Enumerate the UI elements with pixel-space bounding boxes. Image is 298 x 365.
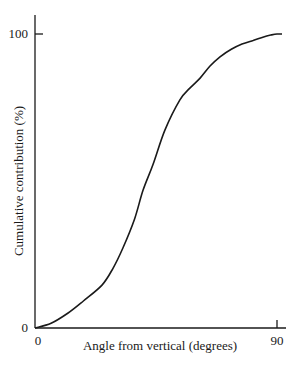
y-tick-label: 100 bbox=[9, 26, 29, 41]
y-axis-label: Cumulative contribution (%) bbox=[11, 106, 26, 256]
x-tick-label: 0 bbox=[35, 333, 42, 348]
axis-ticks: 0100090 bbox=[9, 26, 284, 348]
chart-canvas: 0100090 Angle from vertical (degrees) Cu… bbox=[0, 0, 298, 365]
x-tick-label: 90 bbox=[271, 333, 284, 348]
cumulative-curve bbox=[35, 34, 282, 328]
y-tick-label: 0 bbox=[22, 320, 29, 335]
x-axis-label: Angle from vertical (degrees) bbox=[83, 338, 237, 353]
